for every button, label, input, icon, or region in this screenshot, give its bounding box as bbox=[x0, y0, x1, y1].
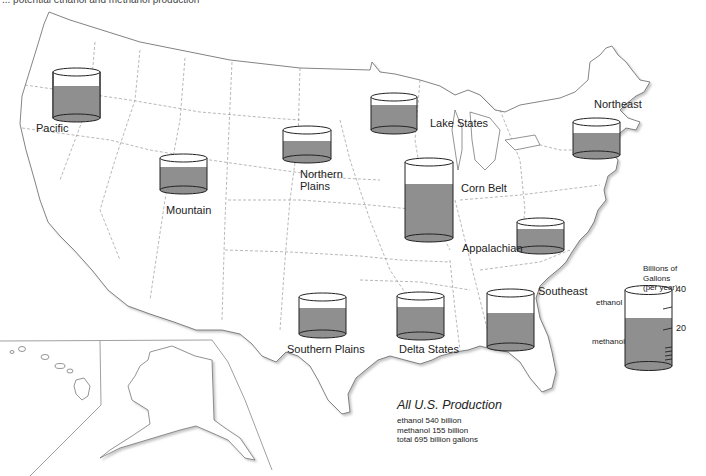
legend-title-line2: (per year) bbox=[643, 283, 706, 293]
summary-title: All U.S. Production bbox=[397, 398, 502, 412]
production-summary: All U.S. Production ethanol 540 billion … bbox=[397, 398, 502, 445]
region-label-appalachian: Appalachian bbox=[462, 242, 523, 255]
region-label-corn-belt: Corn Belt bbox=[461, 182, 507, 195]
cylinder-southern-plains bbox=[299, 293, 346, 338]
cylinder-delta-states bbox=[397, 292, 444, 340]
legend-ethanol-label: ethanol bbox=[596, 298, 622, 307]
region-label-northeast: Northeast bbox=[594, 98, 642, 111]
cylinder-mountain bbox=[160, 154, 207, 194]
summary-methanol: methanol 155 billion bbox=[397, 426, 502, 436]
alaska bbox=[100, 346, 255, 460]
legend-cylinder bbox=[625, 286, 672, 371]
cylinder-pacific bbox=[53, 68, 100, 122]
legend-tick-40: 40 bbox=[676, 284, 686, 294]
region-label-southern-plains: Southern Plains bbox=[287, 343, 365, 356]
summary-ethanol: ethanol 540 billion bbox=[397, 416, 502, 426]
cylinder-appalachian bbox=[517, 218, 564, 254]
cylinder-northeast bbox=[573, 118, 620, 159]
cylinder-southeast bbox=[487, 289, 534, 351]
legend-title-line1: Billions of Gallons bbox=[643, 264, 706, 283]
region-label-mountain: Mountain bbox=[166, 204, 211, 217]
legend-tick-20: 20 bbox=[676, 323, 686, 333]
region-label-southeast: Southeast bbox=[538, 285, 588, 298]
region-label-pacific: Pacific bbox=[36, 122, 68, 135]
inset-frame bbox=[0, 340, 272, 476]
cylinder-corn-belt bbox=[405, 158, 453, 242]
region-label-delta-states: Delta States bbox=[399, 343, 459, 356]
cylinder-northern-plains bbox=[283, 126, 331, 163]
cylinder-lake-states bbox=[371, 93, 417, 134]
region-label-northern-plains-line2: Plains bbox=[300, 180, 330, 193]
legend-title: Billions of Gallons (per year) bbox=[643, 264, 706, 293]
legend-methanol-label: methanol bbox=[592, 337, 625, 346]
region-label-lake-states: Lake States bbox=[430, 117, 488, 130]
hawaii bbox=[10, 347, 90, 401]
us-map bbox=[0, 0, 706, 476]
summary-total: total 695 billion gallons bbox=[397, 435, 502, 445]
